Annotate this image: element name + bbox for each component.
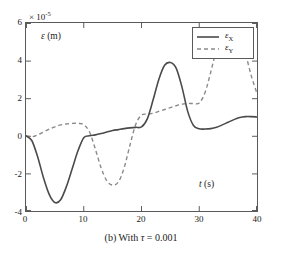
legend-item-epsilon-y: εY [193, 43, 253, 55]
x-tick-label: 10 [79, 214, 88, 225]
legend-label-epsilon-y: εY [225, 42, 233, 56]
legend-item-epsilon-x: εX [193, 31, 253, 43]
exponent-mantissa: × 10 [29, 12, 45, 22]
y-tick-label: -2 [0, 170, 22, 179]
y-tick-label: 0 [0, 132, 22, 141]
series-epsilon-x-line [26, 62, 257, 203]
x-tick-label: 20 [137, 214, 146, 225]
figure-caption: (b) With τ = 0.001 [0, 232, 282, 244]
figure-container: × 10-5 6 4 2 0 -2 -4 0 10 20 30 40 [0, 0, 282, 257]
y-tick-label: 4 [0, 56, 22, 65]
exponent-power: -5 [45, 10, 50, 17]
legend-subscript: Y [229, 47, 234, 54]
legend-subscript: X [229, 35, 234, 42]
y-axis-exponent-label: × 10-5 [29, 8, 51, 23]
x-tick-label: 40 [253, 214, 262, 225]
caption-prefix: (b) With [105, 232, 141, 243]
y-axis-unit: (m) [45, 31, 61, 41]
x-tick-label: 0 [23, 214, 28, 225]
x-tick-label: 30 [195, 214, 204, 225]
legend-box: εX εY [192, 27, 254, 59]
y-tick-label: 6 [0, 18, 22, 27]
x-axis-title: t (s) [199, 179, 214, 190]
caption-value: = 0.001 [144, 232, 177, 243]
x-axis-unit: (s) [202, 179, 214, 189]
y-axis-title: ε (m) [41, 31, 61, 42]
y-tick-label: 2 [0, 94, 22, 103]
x-axis-tick-labels: 0 10 20 30 40 [0, 214, 282, 230]
legend-dashed-line-swatch [197, 44, 219, 54]
legend-solid-line-swatch [197, 32, 219, 42]
